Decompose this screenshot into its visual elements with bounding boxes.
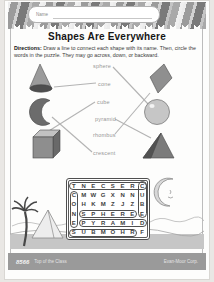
word-search-inner-border: TNECSERCCMWGXNNUOHKMZJZBNSPHEREEEPYRAMID… [68,180,148,238]
grid-letter[interactable]: E [108,209,118,218]
grid-letter[interactable]: M [79,190,89,199]
rhombus-shape[interactable] [150,64,172,93]
sphere-shape[interactable] [145,100,170,125]
grid-letter[interactable]: C [69,190,79,199]
grid-letter[interactable]: Z [128,200,138,209]
name-write-line[interactable] [53,18,152,19]
grid-letter[interactable]: J [118,200,128,209]
grid-letter[interactable]: N [79,181,89,190]
label-pyramid[interactable]: pyramid [95,116,116,122]
grid-letter[interactable]: A [108,218,118,227]
grid-letter[interactable]: U [137,190,147,199]
crescent-shape[interactable] [29,99,50,126]
grid-letter[interactable]: S [69,228,79,237]
grid-letter[interactable]: D [137,218,147,227]
name-field[interactable]: Name [28,6,160,23]
word-grid: TNECSERCCMWGXNNUOHKMZJZBNSPHEREEEPYRAMID… [69,181,147,237]
grid-letter[interactable]: M [118,218,128,227]
grid-letter[interactable]: H [98,209,108,218]
grid-letter[interactable]: E [128,209,138,218]
grid-letter[interactable]: R [128,181,138,190]
line-cone[interactable] [54,83,96,87]
cube-shape[interactable] [33,130,60,158]
grid-letter[interactable]: R [118,209,128,218]
grid-letter[interactable]: H [79,200,89,209]
grid-letter[interactable]: N [69,209,79,218]
worksheet-scan: Name Shapes Are Everywhere Directions: D… [0,0,214,282]
grid-letter[interactable]: X [108,190,118,199]
grid-letter[interactable]: M [98,200,108,209]
footer-bar: 8566 Top of the Class Evan-Moor Corp. [8,253,206,270]
label-cube[interactable]: cube [97,99,110,105]
grid-letter[interactable]: O [69,200,79,209]
dune-line-right [150,217,204,222]
grid-letter[interactable]: E [137,209,147,218]
grid-letter[interactable]: E [69,218,79,227]
footer-code: 8566 [16,259,29,265]
grid-letter[interactable]: C [98,181,108,190]
grid-letter[interactable]: C [137,181,147,190]
grid-letter[interactable]: R [98,218,108,227]
grid-letter[interactable]: F [137,228,147,237]
grid-letter[interactable]: E [89,181,99,190]
grid-letter[interactable]: T [69,181,79,190]
label-rhombus[interactable]: rhombus [93,132,116,138]
grid-letter[interactable]: Y [89,218,99,227]
line-sphere[interactable] [113,67,149,105]
label-crescent[interactable]: crescent [93,150,115,156]
grid-letter[interactable]: E [118,181,128,190]
grid-letter[interactable]: B [89,228,99,237]
label-cone[interactable]: cone [98,81,111,87]
scene-moon-drawing [154,178,173,206]
grid-letter[interactable]: G [98,190,108,199]
grid-letter[interactable]: R [128,228,138,237]
footer-publisher: Evan-Moor Corp. [164,259,198,264]
grid-letter[interactable]: Z [108,200,118,209]
name-field-label: Name [36,12,48,17]
word-search-box: TNECSERCCMWGXNNUOHKMZJZBNSPHEREEEPYRAMID… [66,178,150,240]
grid-letter[interactable]: O [108,228,118,237]
grid-letter[interactable]: K [89,200,99,209]
grid-letter[interactable]: N [118,190,128,199]
grid-letter[interactable]: P [89,209,99,218]
grid-letter[interactable]: S [79,209,89,218]
scene-pyramid-drawing [32,210,63,238]
grid-letter[interactable]: I [128,218,138,227]
grid-letter[interactable]: P [79,218,89,227]
grid-letter[interactable]: S [108,181,118,190]
line-cube[interactable] [44,102,95,134]
footer-series-name: Top of the Class [34,259,66,264]
grid-letter[interactable]: N [128,190,138,199]
grid-letter[interactable]: M [98,228,108,237]
grid-letter[interactable]: B [137,200,147,209]
grid-letter[interactable]: H [118,228,128,237]
grid-letter[interactable]: W [89,190,99,199]
cone-shape[interactable] [30,64,52,92]
grid-letter[interactable]: U [79,228,89,237]
label-sphere[interactable]: sphere [93,63,111,69]
